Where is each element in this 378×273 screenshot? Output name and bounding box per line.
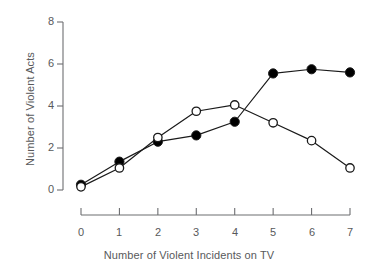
chart-container: 8 6 4 2 0 0 1 2 3 4 5 6 7 Number of Viol… xyxy=(0,0,378,273)
series-markers xyxy=(76,65,354,191)
plot-area xyxy=(0,0,378,273)
y-axis xyxy=(57,22,63,190)
x-axis xyxy=(81,208,350,215)
